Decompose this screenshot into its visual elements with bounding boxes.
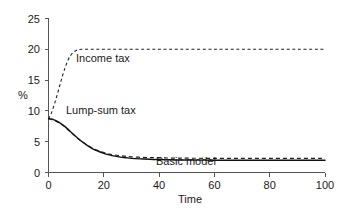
y-axis-tick-labels: 25 20 15 10 5 0 [28, 13, 40, 179]
y-axis-title: % [18, 89, 28, 101]
annotation-income-tax: Income tax [76, 52, 130, 64]
x-axis-tick-labels: 0 20 40 60 80 100 [45, 179, 334, 191]
series-line-lump-sum-tax [49, 119, 326, 158]
series-line-basic-model [49, 119, 326, 161]
x-axis-ticks [49, 173, 326, 178]
chart-figure: 25 20 15 10 5 0 0 20 40 60 80 100 % Time [0, 0, 346, 211]
y-tick-label-5: 5 [34, 136, 40, 148]
x-tick-label-60: 60 [208, 179, 220, 191]
chart-axes [49, 18, 326, 173]
y-tick-label-20: 20 [28, 43, 40, 55]
annotation-lump-sum-tax: Lump-sum tax [66, 104, 136, 116]
y-tick-label-25: 25 [28, 13, 40, 25]
y-tick-label-0: 0 [34, 167, 40, 179]
series-annotations: Income tax Lump-sum tax Basic model [66, 52, 216, 167]
x-axis-title: Time [178, 193, 202, 205]
x-tick-label-0: 0 [45, 179, 51, 191]
annotation-basic-model: Basic model [156, 155, 216, 167]
y-tick-label-10: 10 [28, 105, 40, 117]
y-axis-ticks [45, 19, 49, 173]
x-tick-label-100: 100 [316, 179, 334, 191]
line-chart: 25 20 15 10 5 0 0 20 40 60 80 100 % Time [0, 0, 346, 211]
x-tick-label-40: 40 [153, 179, 165, 191]
x-tick-label-20: 20 [98, 179, 110, 191]
x-tick-label-80: 80 [264, 179, 276, 191]
y-tick-label-15: 15 [28, 74, 40, 86]
